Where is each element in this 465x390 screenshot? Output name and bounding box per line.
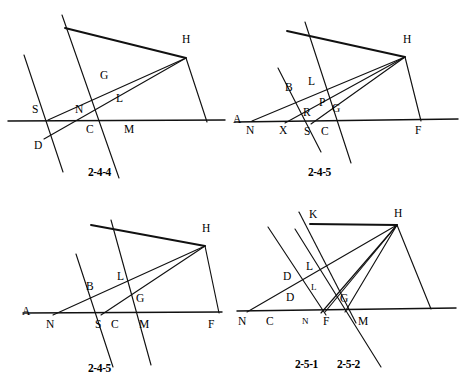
point-label-m: M <box>358 316 368 328</box>
top-bar <box>65 28 186 58</box>
point-label-s: S <box>95 319 101 331</box>
top-bar <box>310 224 397 225</box>
point-label-n: N <box>75 104 83 116</box>
figure-sheet: H G L S N C M D 2-4-4 H L B P G R A N X … <box>0 0 465 390</box>
point-label-f: F <box>415 125 421 137</box>
point-label-a: A <box>233 114 241 126</box>
point-label-f: F <box>323 316 329 328</box>
figure-caption: 2-4-5 <box>88 362 111 374</box>
point-label-m: M <box>139 319 149 331</box>
figure-caption-left: 2-5-1 <box>295 358 318 370</box>
point-label-h: H <box>182 34 190 46</box>
ray-m-to-h <box>345 225 397 312</box>
figure-2-5-1-2-5-2: K H L D L D G N C N F M 2-5-1 2-5-2 <box>233 195 465 390</box>
figure-caption: 2-4-5 <box>308 166 331 178</box>
point-label-b: B <box>285 82 293 94</box>
point-label-s: S <box>32 104 38 116</box>
right-leg <box>186 58 207 122</box>
right-leg <box>205 246 219 313</box>
point-label-b: B <box>86 281 94 293</box>
ray-d-to-h <box>44 58 186 139</box>
point-label-a: A <box>22 306 30 318</box>
point-label-n-mid: N <box>302 317 309 326</box>
point-label-g: G <box>100 70 108 82</box>
point-label-g: G <box>332 103 340 115</box>
steep-transversal-2 <box>111 220 151 365</box>
point-label-l: L <box>116 93 123 105</box>
point-label-l-upper: L <box>306 261 313 273</box>
point-label-h: H <box>394 208 402 220</box>
ray-f2-to-h <box>325 225 397 312</box>
point-label-x: X <box>279 125 287 137</box>
point-label-c: C <box>266 316 274 328</box>
point-label-s: S <box>304 126 310 138</box>
point-label-g: G <box>340 293 348 305</box>
point-label-d-upper: D <box>283 271 291 283</box>
baseline <box>235 119 458 122</box>
point-label-p: P <box>319 97 325 109</box>
point-label-c: C <box>86 124 94 136</box>
ray-n-to-h <box>53 246 205 315</box>
point-label-d: D <box>34 140 42 152</box>
baseline <box>23 312 222 313</box>
point-label-l: L <box>308 76 315 88</box>
point-label-c: C <box>111 319 119 331</box>
figure-2-4-4: H G L S N C M D 2-4-4 <box>0 0 232 195</box>
baseline <box>8 120 225 121</box>
point-label-n-left: N <box>238 316 246 328</box>
figure-2-4-5-bottom: H L B G A N S C M F 2-4-5 <box>0 195 232 390</box>
point-label-l: L <box>117 271 124 283</box>
point-label-r: R <box>303 107 311 119</box>
figure-caption: 2-4-4 <box>88 166 111 178</box>
figure-caption-right: 2-5-2 <box>337 358 360 370</box>
point-label-l-lower: L <box>311 283 317 292</box>
point-label-g: G <box>136 293 144 305</box>
point-label-n: N <box>46 319 54 331</box>
point-label-f: F <box>208 319 214 331</box>
oblique-long <box>295 229 381 367</box>
point-label-c: C <box>321 126 329 138</box>
point-label-n: N <box>246 125 254 137</box>
point-label-h: H <box>202 223 210 235</box>
figure-2-4-5-bottom-canvas <box>0 195 232 390</box>
ray-s-to-h <box>48 58 186 120</box>
top-bar <box>91 225 205 246</box>
right-leg <box>405 57 421 121</box>
figure-2-4-5-top-canvas <box>233 0 465 195</box>
short-steep-transversal <box>24 55 63 172</box>
point-label-k: K <box>309 209 317 221</box>
point-label-d-lower: D <box>286 292 294 304</box>
point-label-h: H <box>403 34 411 46</box>
ray-n-to-h <box>247 225 397 312</box>
right-leg <box>397 225 431 309</box>
point-label-m: M <box>124 124 134 136</box>
figure-2-4-5-top: H L B P G R A N X S C F 2-4-5 <box>233 0 465 195</box>
top-bar <box>287 31 405 57</box>
